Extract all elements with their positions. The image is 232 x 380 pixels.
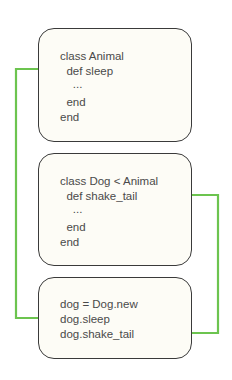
code-line: dog.sleep bbox=[60, 312, 110, 326]
animal-class-box: class Animal def sleep ... end end bbox=[38, 28, 192, 142]
code-line: end bbox=[60, 95, 86, 109]
dog-class-box: class Dog < Animal def shake_tail ... en… bbox=[38, 153, 192, 266]
code-line: class Dog < Animal bbox=[60, 174, 158, 188]
code-line: ... bbox=[60, 77, 82, 91]
code-line: def sleep bbox=[60, 64, 113, 78]
code-line: end bbox=[60, 220, 86, 234]
code-line: end bbox=[60, 235, 79, 249]
code-line: def shake_tail bbox=[60, 189, 137, 203]
code-line: ... bbox=[60, 202, 82, 216]
code-line: end bbox=[60, 110, 79, 124]
code-line: class Animal bbox=[60, 49, 124, 63]
code-line: dog.shake_tail bbox=[60, 327, 134, 341]
code-line: dog = Dog.new bbox=[60, 297, 138, 311]
usage-box: dog = Dog.new dog.sleep dog.shake_tail bbox=[38, 277, 192, 359]
